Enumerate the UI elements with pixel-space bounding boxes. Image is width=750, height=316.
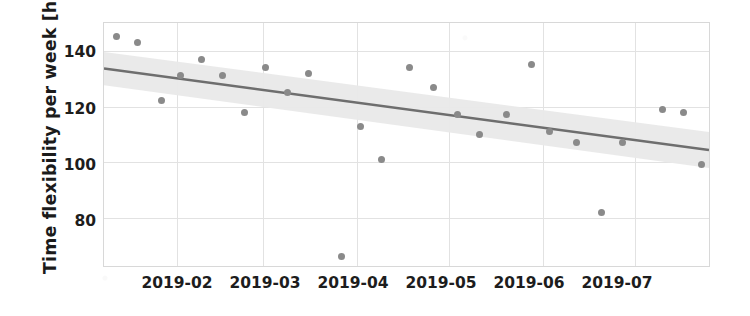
x-tick-2019-03: 2019-03 [229, 274, 300, 292]
data-point [284, 89, 291, 96]
y-axis-tick-labels: 140 120 100 80 [50, 0, 96, 316]
x-tick-2019-07: 2019-07 [581, 274, 652, 292]
x-tick-2019-02: 2019-02 [141, 274, 212, 292]
trend-line [104, 23, 709, 266]
data-point [680, 109, 687, 116]
data-point [476, 131, 483, 138]
data-point [430, 84, 437, 91]
y-tick-80: 80 [52, 212, 96, 230]
data-point [134, 39, 141, 46]
y-tick-120: 120 [52, 100, 96, 118]
data-point [357, 123, 364, 130]
data-point [241, 109, 248, 116]
data-point [378, 156, 385, 163]
data-point [659, 106, 666, 113]
data-point [598, 209, 605, 216]
x-tick-2019-06: 2019-06 [493, 274, 564, 292]
scatter-chart-figure: Time flexibility per week [h] 140 120 10… [0, 0, 750, 316]
data-point [546, 128, 553, 135]
data-point [305, 70, 312, 77]
data-point [198, 56, 205, 63]
x-tick-2019-05: 2019-05 [405, 274, 476, 292]
data-point [528, 61, 535, 68]
y-tick-140: 140 [52, 43, 96, 61]
y-tick-100: 100 [52, 156, 96, 174]
plot-area [103, 22, 710, 267]
x-tick-2019-04: 2019-04 [317, 274, 388, 292]
data-point [406, 64, 413, 71]
